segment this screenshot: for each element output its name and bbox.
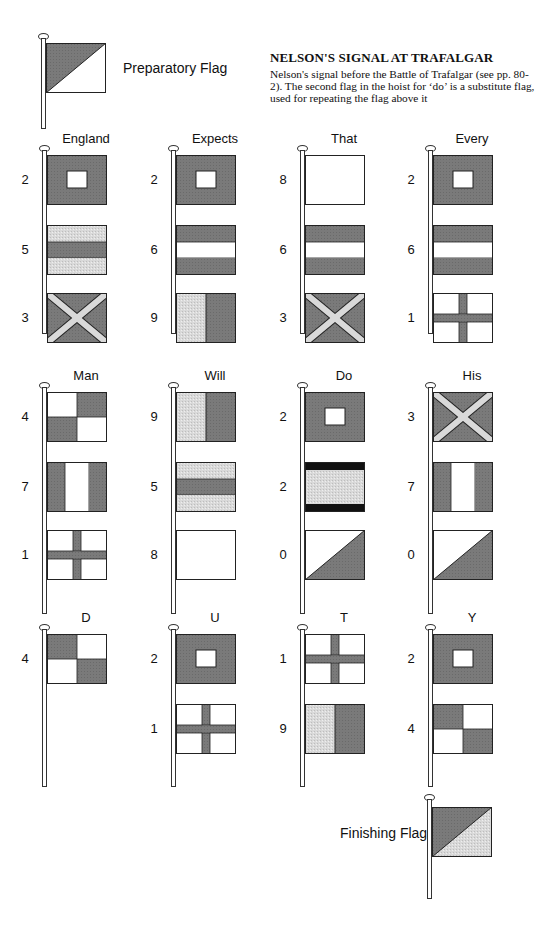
signal-flag-dark-white-dark-horizontal-icon [433,225,493,275]
flag-number: 9 [147,310,161,325]
signal-flag-quartered-white-first-icon [47,392,107,442]
word-label: Every [432,131,512,146]
signal-flag-cross-icon [176,704,236,754]
flag-number: 6 [276,242,290,257]
signal-flag-dark-white-dark-vertical-icon [433,462,493,512]
caption-block: NELSON'S SIGNAL AT TRAFALGAR Nelson's si… [270,50,540,104]
preparatory-flag-icon [46,43,106,93]
word-label: That [304,131,384,146]
signal-flag-dark-white-dark-horizontal-icon [176,225,236,275]
signal-flag-saltire-icon [433,392,493,442]
signal-flag-dark-white-dark-vertical-icon [47,462,107,512]
flag-number: 2 [276,409,290,424]
flag-number: 1 [276,651,290,666]
flag-number: 4 [404,721,418,736]
signal-flag-light-dark-vertical-icon [176,392,236,442]
flag-number: 8 [276,172,290,187]
flag-number: 6 [404,242,418,257]
flag-number: 4 [18,651,32,666]
signal-flag-quartered-dark-first-icon [433,704,493,754]
signal-flag-saltire-icon [47,293,107,343]
signal-flag-square-window-icon [433,155,493,205]
signal-flag-square-window-icon [176,634,236,684]
word-label: England [46,131,126,146]
signal-flag-plain-white-icon [305,155,365,205]
signal-flag-cross-icon [47,530,107,580]
flag-number: 3 [404,409,418,424]
preparatory-flag-label: Preparatory Flag [123,60,227,76]
signal-flag-square-window-icon [305,392,365,442]
word-label: Expects [175,131,255,146]
flag-number: 7 [404,479,418,494]
signal-flag-plain-white-icon [176,530,236,580]
page-title: NELSON'S SIGNAL AT TRAFALGAR [270,50,540,66]
signal-flag-saltire-icon [305,293,365,343]
signal-flag-light-dark-vertical-icon [176,293,236,343]
signal-flag-light-dark-light-horizontal-icon [176,462,236,512]
flag-number: 2 [147,172,161,187]
signal-flag-light-dark-light-horizontal-icon [47,225,107,275]
signal-flag-dark-white-dark-horizontal-icon [305,225,365,275]
flag-number: 4 [18,409,32,424]
signal-flag-square-window-icon [47,155,107,205]
flag-number: 5 [18,242,32,257]
flag-number: 3 [18,310,32,325]
flag-number: 7 [18,479,32,494]
word-label: Y [432,610,512,625]
flag-number: 1 [404,310,418,325]
finishing-flag-label: Finishing Flag [340,825,427,841]
signal-flag-half-dark-bottom-right-icon [305,530,365,580]
flag-number: 2 [18,172,32,187]
word-label: D [46,610,126,625]
flag-number: 1 [18,547,32,562]
signal-flag-light-dark-vertical-icon [305,704,365,754]
signal-flag-square-window-icon [176,155,236,205]
flag-number: 1 [147,721,161,736]
flag-number: 6 [147,242,161,257]
signal-flag-cross-icon [305,634,365,684]
flag-number: 2 [276,479,290,494]
flag-number: 0 [276,547,290,562]
word-label: Do [304,368,384,383]
signal-flag-substitute-black-bands-icon [305,462,365,512]
word-label: Will [175,368,255,383]
flag-number: 3 [276,310,290,325]
description: Nelson's signal before the Battle of Tra… [270,68,540,104]
word-label: His [432,368,512,383]
word-label: Man [46,368,126,383]
flag-number: 2 [404,172,418,187]
flag-number: 9 [147,409,161,424]
signal-flag-square-window-icon [433,634,493,684]
signal-flag-quartered-dark-first-icon [47,634,107,684]
flag-number: 0 [404,547,418,562]
signal-flag-cross-icon [433,293,493,343]
finishing-flag-icon [432,807,492,857]
flag-number: 8 [147,547,161,562]
flag-number: 9 [276,721,290,736]
signal-flag-half-dark-bottom-right-icon [433,530,493,580]
word-label: T [304,610,384,625]
word-label: U [175,610,255,625]
flag-number: 5 [147,479,161,494]
flag-number: 2 [147,651,161,666]
flag-number: 2 [404,651,418,666]
